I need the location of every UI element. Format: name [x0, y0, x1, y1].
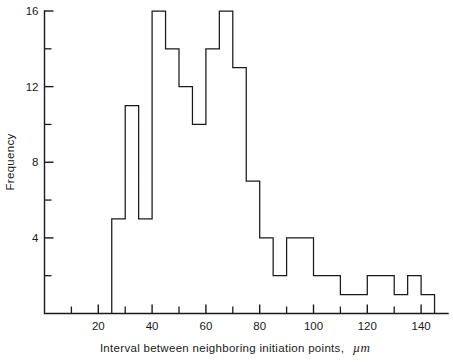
- y-axis-ticks: [45, 11, 54, 276]
- histogram-chart: 481216 20406080100120140 Frequency Inter…: [0, 0, 453, 363]
- histogram-outline: [112, 11, 435, 314]
- x-tick-label: 100: [304, 320, 323, 332]
- y-tick-label: 12: [26, 81, 39, 93]
- y-tick-label: 16: [26, 5, 39, 17]
- x-axis-unit-label: µm: [353, 340, 370, 355]
- x-tick-label: 80: [253, 320, 266, 332]
- x-tick-label: 60: [200, 320, 213, 332]
- y-tick-label: 8: [32, 156, 38, 168]
- y-axis-tick-labels: 481216: [26, 5, 39, 244]
- chart-canvas: 481216 20406080100120140 Frequency Inter…: [0, 0, 453, 363]
- x-axis-title: Interval between neighboring initiation …: [100, 340, 370, 355]
- x-tick-label: 120: [358, 320, 377, 332]
- x-tick-label: 40: [146, 320, 159, 332]
- y-tick-label: 4: [32, 232, 39, 244]
- x-tick-label: 140: [412, 320, 431, 332]
- x-axis-ticks: [71, 305, 421, 314]
- x-tick-label: 20: [92, 320, 105, 332]
- x-axis-title-text: Interval between neighboring initiation …: [100, 342, 344, 354]
- y-axis-title: Frequency: [4, 133, 16, 190]
- x-axis-tick-labels: 20406080100120140: [92, 320, 431, 332]
